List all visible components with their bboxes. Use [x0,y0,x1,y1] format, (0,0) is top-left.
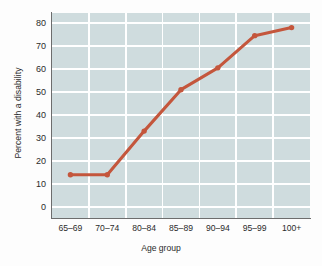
gridline-vertical [272,13,274,218]
y-axis-tick-label: 40 [20,111,46,120]
data-point-marker[interactable] [105,172,110,177]
data-point-marker[interactable] [68,172,73,177]
y-axis-tick-label: 50 [20,88,46,97]
data-point-marker[interactable] [178,87,183,92]
plot-area [52,13,310,218]
y-axis-tick-label: 60 [20,65,46,74]
y-axis-tick-label: 10 [20,180,46,189]
gridline-horizontal [52,160,310,162]
y-axis-tick-label: 80 [20,19,46,28]
y-axis-tick-label: 20 [20,157,46,166]
y-axis-tick-label: 30 [20,134,46,143]
data-point-marker[interactable] [252,33,257,38]
chart-container: Percent with a disability Age group 0102… [0,0,322,266]
gridline-vertical [199,13,201,218]
data-point-marker[interactable] [289,25,294,30]
gridline-vertical [235,13,237,218]
x-axis-tick-label: 100+ [269,224,315,233]
x-axis-spine [51,218,311,219]
gridline-horizontal [52,45,310,47]
data-point-marker[interactable] [215,65,220,70]
gridline-horizontal [52,22,310,24]
gridline-horizontal [52,183,310,185]
y-axis-tick-label: 0 [20,203,46,212]
y-axis-tick-label: 70 [20,42,46,51]
gridline-horizontal [52,137,310,139]
gridline-vertical [162,13,164,218]
gridline-horizontal [52,68,310,70]
gridline-vertical [88,13,90,218]
x-axis-title: Age group [0,243,322,253]
y-axis-spine [51,12,52,219]
gridline-horizontal [52,114,310,116]
gridline-vertical [125,13,127,218]
data-point-marker[interactable] [141,128,146,133]
gridline-horizontal [52,206,310,208]
